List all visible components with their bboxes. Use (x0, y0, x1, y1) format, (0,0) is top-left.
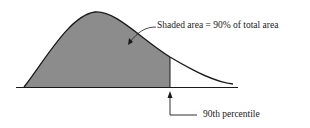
shaded-area-annotation: Shaded area = 90% of total area (157, 20, 278, 30)
percentile-annotation: 90th percentile (203, 109, 260, 119)
skewed-distribution-diagram: Shaded area = 90% of total area 90th per… (0, 0, 310, 128)
percentile-arrowhead-icon (168, 91, 173, 98)
shaded-area (24, 12, 170, 87)
percentile-pointer-line (170, 95, 197, 115)
